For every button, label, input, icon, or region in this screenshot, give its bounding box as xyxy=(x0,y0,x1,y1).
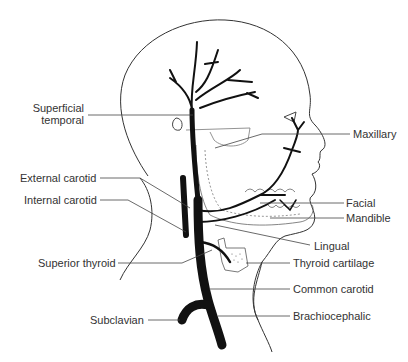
label-superficial-temporal: Superficial temporal xyxy=(8,102,84,126)
mandible-branch xyxy=(280,200,296,210)
head-outline xyxy=(121,20,325,352)
label-superior-thyroid: Superior thyroid xyxy=(38,257,116,269)
label-common-carotid: Common carotid xyxy=(293,283,374,295)
label-facial: Facial xyxy=(346,197,375,209)
mandible-outline xyxy=(196,145,313,225)
arteries xyxy=(170,42,304,345)
label-subclavian: Subclavian xyxy=(90,314,144,326)
external-carotid-artery xyxy=(192,110,198,200)
label-superficial-line1: Superficial xyxy=(8,102,84,114)
label-maxillary: Maxillary xyxy=(353,128,396,140)
label-lingual: Lingual xyxy=(314,240,349,252)
label-thyroid-cartilage: Thyroid cartilage xyxy=(293,257,374,269)
lower-teeth xyxy=(268,205,300,208)
label-internal-carotid: Internal carotid xyxy=(24,194,97,206)
superficial-temporal-branches xyxy=(170,42,258,110)
neck-back-outline xyxy=(120,178,152,280)
ear xyxy=(173,118,183,130)
label-external-carotid: External carotid xyxy=(20,172,96,184)
internal-carotid-artery xyxy=(183,178,186,235)
subclavian-artery xyxy=(182,304,208,320)
label-superficial-line2: temporal xyxy=(8,114,84,126)
label-mandible: Mandible xyxy=(346,212,391,224)
label-brachiocephalic: Brachiocephalic xyxy=(293,310,371,322)
thyroid-cartilage xyxy=(218,238,248,272)
